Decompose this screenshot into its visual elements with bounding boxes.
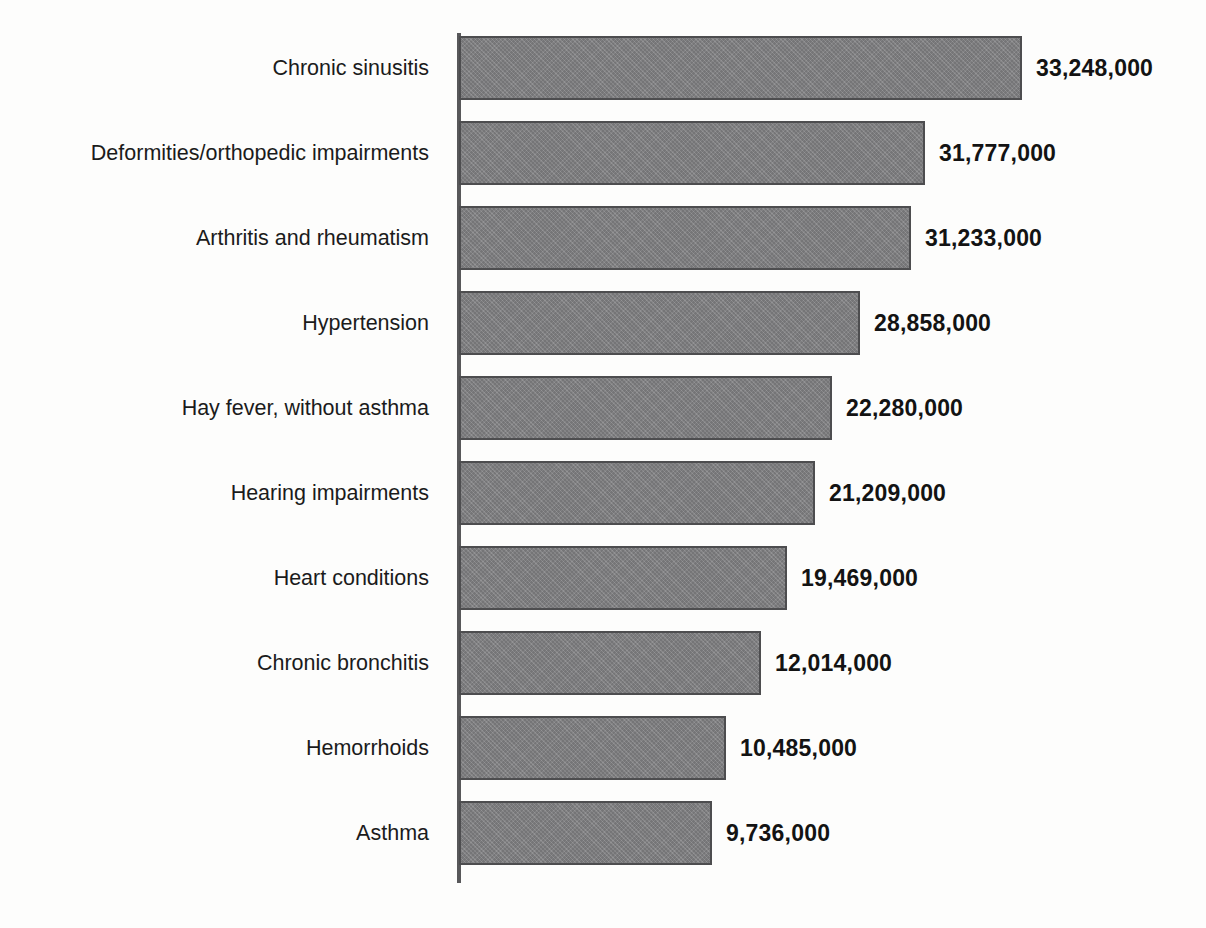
bar-rect[interactable]	[459, 716, 726, 780]
bar-rect[interactable]	[459, 121, 925, 185]
bar-value-label: 28,858,000	[874, 291, 991, 355]
bar-row[interactable]: Asthma 9,736,000	[0, 801, 1206, 865]
bar-rect[interactable]	[459, 291, 860, 355]
bar-row[interactable]: Hemorrhoids 10,485,000	[0, 716, 1206, 780]
bar-value-label: 10,485,000	[740, 716, 857, 780]
bar-rect[interactable]	[459, 36, 1022, 100]
bar-rect[interactable]	[459, 631, 761, 695]
bar-category-label: Chronic bronchitis	[0, 631, 443, 695]
bar-row[interactable]: Heart conditions 19,469,000	[0, 546, 1206, 610]
bar-value-label: 31,777,000	[939, 121, 1056, 185]
bar-category-label: Deformities/orthopedic impairments	[0, 121, 443, 185]
bar-category-label: Hypertension	[0, 291, 443, 355]
bar-category-label: Asthma	[0, 801, 443, 865]
bar-row[interactable]: Deformities/orthopedic impairments 31,77…	[0, 121, 1206, 185]
bar-rect[interactable]	[459, 546, 787, 610]
bar-category-label: Arthritis and rheumatism	[0, 206, 443, 270]
bar-row[interactable]: Hypertension 28,858,000	[0, 291, 1206, 355]
bar-value-label: 22,280,000	[846, 376, 963, 440]
bar-row[interactable]: Chronic bronchitis 12,014,000	[0, 631, 1206, 695]
bar-category-label: Hay fever, without asthma	[0, 376, 443, 440]
bar-value-label: 31,233,000	[925, 206, 1042, 270]
bar-value-label: 33,248,000	[1036, 36, 1153, 100]
bar-row[interactable]: Arthritis and rheumatism 31,233,000	[0, 206, 1206, 270]
bar-row[interactable]: Hearing impairments 21,209,000	[0, 461, 1206, 525]
bar-category-label: Chronic sinusitis	[0, 36, 443, 100]
bar-rect[interactable]	[459, 801, 712, 865]
bar-row[interactable]: Hay fever, without asthma 22,280,000	[0, 376, 1206, 440]
bar-rect[interactable]	[459, 461, 815, 525]
bar-rect[interactable]	[459, 376, 832, 440]
bar-value-label: 9,736,000	[726, 801, 830, 865]
bar-category-label: Hemorrhoids	[0, 716, 443, 780]
bar-value-label: 12,014,000	[775, 631, 892, 695]
bar-value-label: 19,469,000	[801, 546, 918, 610]
bar-category-label: Hearing impairments	[0, 461, 443, 525]
bar-row[interactable]: Chronic sinusitis 33,248,000	[0, 36, 1206, 100]
bar-category-label: Heart conditions	[0, 546, 443, 610]
bar-rect[interactable]	[459, 206, 911, 270]
bar-value-label: 21,209,000	[829, 461, 946, 525]
horizontal-bar-chart: Chronic sinusitis 33,248,000 Deformities…	[0, 0, 1206, 928]
